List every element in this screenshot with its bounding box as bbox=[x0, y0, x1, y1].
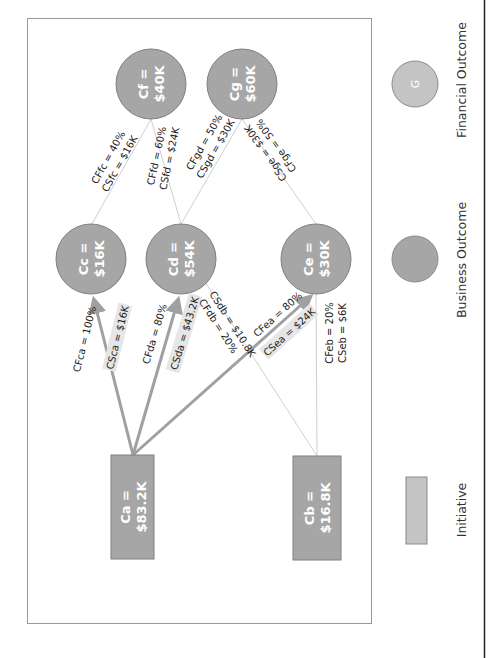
diagram-canvas: Cf = $40K Cg = $60K Cc = $16K Cd = $54K … bbox=[0, 0, 494, 658]
label-cd-cf: CFfd = 60% CSfd = $24K bbox=[145, 123, 182, 191]
label-ce-cg: CSge = $30K CFge = 50% bbox=[242, 115, 300, 183]
node-cb[interactable]: Cb = $16.8K bbox=[293, 456, 341, 560]
node-cg-line2: $60K bbox=[243, 64, 258, 102]
node-ca-line1: Ca = bbox=[118, 490, 133, 524]
node-cg[interactable]: Cg = $60K bbox=[207, 49, 277, 119]
label-cfca: CFca = 100% bbox=[71, 305, 98, 373]
node-cc-line2: $16K bbox=[92, 239, 107, 277]
edge-cb-ce bbox=[316, 294, 317, 456]
label-cb-cd: CSdb = $10.8K CFdb = 20% bbox=[196, 289, 258, 366]
legend-initiative-symbol bbox=[406, 477, 427, 544]
label-csda: CSda = $43.2K bbox=[168, 295, 201, 371]
label-cseb: CSeb = $6K bbox=[337, 303, 348, 363]
legend-business-outcome-label: Business Outcome bbox=[454, 202, 469, 318]
legend-financial-outcome-label: Financial Outcome bbox=[454, 22, 469, 138]
label-cfeb: CFeb = 20% bbox=[324, 302, 335, 364]
label-cfda: CFda = 80% bbox=[140, 303, 169, 366]
node-cc-line1: Cc = bbox=[76, 243, 91, 276]
node-ca[interactable]: Ca = $83.2K bbox=[111, 455, 154, 559]
node-ca-line2: $83.2K bbox=[134, 480, 149, 532]
legend-financial-outcome: G Financial Outcome bbox=[392, 22, 469, 138]
legend-initiative-label: Initiative bbox=[454, 482, 469, 537]
label-ca-ce-cost: CSea = $24K bbox=[259, 304, 319, 360]
node-cd[interactable]: Cd = $54K bbox=[146, 224, 216, 294]
node-ce-line1: Ce = bbox=[301, 242, 316, 276]
label-ca-cd-cost: CSda = $43.2K bbox=[166, 293, 203, 374]
node-cc[interactable]: Cc = $16K bbox=[56, 224, 126, 294]
node-cb-line2: $16.8K bbox=[318, 481, 333, 533]
label-ca-cc-cost: CSca = $16K bbox=[102, 303, 132, 372]
node-ce-line2: $30K bbox=[317, 239, 332, 277]
label-ca-cd: CFda = 80% bbox=[140, 303, 169, 366]
label-ca-cc: CFca = 100% bbox=[71, 305, 98, 373]
legend-business-outcome: Business Outcome bbox=[392, 202, 469, 318]
legend-financial-outcome-symbol-label: G bbox=[409, 80, 422, 89]
node-cd-line1: Cd = bbox=[166, 242, 181, 276]
node-cf[interactable]: Cf = $40K bbox=[116, 49, 186, 119]
node-cf-line1: Cf = bbox=[136, 69, 151, 100]
node-cb-line1: Cb = bbox=[302, 491, 317, 525]
node-cf-line2: $40K bbox=[152, 64, 167, 102]
node-cg-line1: Cg = bbox=[227, 67, 242, 101]
legend-initiative: Initiative bbox=[406, 477, 469, 544]
label-cc-cf: CFfc = 40% CSfc = $16K bbox=[88, 127, 140, 194]
legend-business-outcome-symbol bbox=[392, 236, 438, 282]
node-ce[interactable]: Ce = $30K bbox=[281, 224, 351, 294]
label-cb-ce: CFeb = 20% CSeb = $6K bbox=[324, 302, 348, 364]
label-cd-cg: CFgd = 50% CSgd = $30K bbox=[183, 110, 237, 180]
node-cd-line2: $54K bbox=[182, 239, 197, 277]
